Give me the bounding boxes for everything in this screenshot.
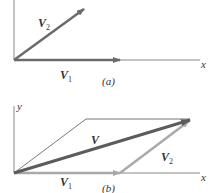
label-v2-b: V2	[161, 150, 173, 166]
vector-v2-a	[14, 9, 84, 60]
label-v-resultant: V	[91, 133, 100, 147]
panel-a: V2 V1 (a) x	[14, 0, 206, 88]
vector-v-resultant	[14, 120, 190, 173]
caption-a: (a)	[102, 75, 115, 88]
parallelogram-left-edge	[14, 119, 86, 173]
vector-addition-diagram: V2 V1 (a) x y V V2 V1 (b) x	[0, 0, 222, 193]
label-v1-a: V1	[60, 68, 72, 84]
x-axis-label-b: x	[200, 171, 206, 183]
caption-b: (b)	[102, 182, 115, 193]
label-v1-b: V1	[60, 175, 72, 191]
y-axis-label-b: y	[16, 100, 22, 112]
panel-b: y V V2 V1 (b) x	[14, 100, 206, 193]
label-v2-a: V2	[38, 16, 50, 32]
vector-v2-b	[120, 121, 189, 173]
x-axis-label-a: x	[200, 58, 206, 70]
